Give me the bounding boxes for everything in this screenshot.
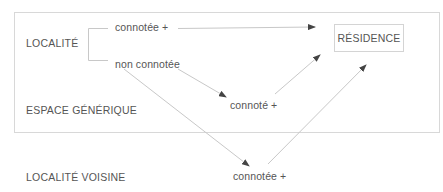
node-residence: RÉSIDENCE [337,32,400,44]
edge-nonconnotee-to-voisine [124,69,249,166]
node-voisine-connotee: connotée + [233,170,286,182]
node-branch-connotee: connotée + [115,21,168,33]
edge-nonconnotee-to-connote [178,69,226,97]
node-branch-non-connotee: non connotée [115,58,180,70]
edge-connotee-to-residence [178,27,315,29]
localite-residence-diagram: LOCALITÉ connotée + non connotée RÉSIDEN… [0,0,443,192]
edge-voisine-to-residence [268,65,366,164]
node-localite-voisine: LOCALITÉ VOISINE [26,171,125,183]
localite-bracket [89,29,109,61]
edge-connote-to-residence [275,55,320,94]
node-espace-connote: connoté + [230,99,277,111]
node-espace-generique: ESPACE GÉNÉRIQUE [26,104,137,116]
node-residence-box: RÉSIDENCE [334,24,404,52]
node-localite: LOCALITÉ [26,37,78,49]
